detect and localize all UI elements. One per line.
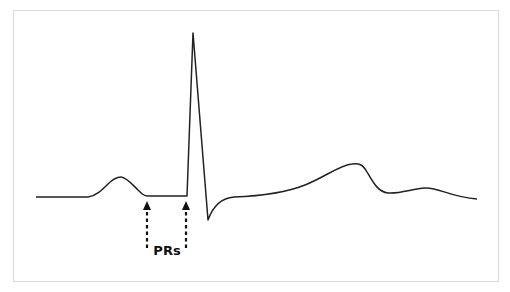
arrow-head-pr-end	[182, 201, 190, 210]
prs-label: PRs	[150, 243, 184, 258]
arrow-head-pr-start	[143, 201, 151, 210]
ecg-diagram	[0, 0, 510, 292]
ecg-trace	[36, 33, 477, 220]
